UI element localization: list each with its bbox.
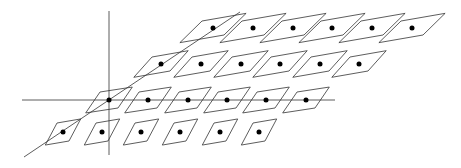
lattice-cell <box>202 119 237 145</box>
lattice-cell <box>293 51 347 78</box>
lattice-cell <box>214 51 268 78</box>
center-dot <box>330 26 335 31</box>
center-dot <box>278 62 283 67</box>
lattice-cell <box>332 51 386 78</box>
center-dot <box>257 130 262 135</box>
center-dot <box>218 130 223 135</box>
center-dot <box>251 26 256 31</box>
center-dot <box>186 98 191 103</box>
center-dot <box>239 62 244 67</box>
center-dot <box>107 98 112 103</box>
lattice-cell <box>241 119 276 145</box>
center-dot <box>159 62 164 67</box>
center-dot <box>304 98 309 103</box>
lattice-cell <box>174 51 228 78</box>
center-dot <box>357 62 362 67</box>
center-dot <box>199 62 204 67</box>
parallelogram-cells <box>45 13 445 145</box>
center-dot <box>410 26 415 31</box>
lattice-cell <box>220 13 286 42</box>
lattice-cell <box>180 13 246 42</box>
center-dot <box>264 98 269 103</box>
lattice-cell <box>379 13 445 42</box>
axes-group <box>22 11 335 157</box>
center-dot <box>291 26 296 31</box>
lattice-cell <box>134 51 188 78</box>
center-dot <box>61 130 66 135</box>
lattice-cell <box>260 13 326 42</box>
center-dot <box>146 98 151 103</box>
lattice-diagram <box>0 0 461 168</box>
center-dot <box>370 26 375 31</box>
lattice-cell <box>162 119 197 145</box>
center-dot <box>100 130 105 135</box>
lattice-cell <box>84 119 119 145</box>
center-dot <box>139 130 144 135</box>
lattice-cell <box>123 119 158 145</box>
lattice-cell <box>253 51 307 78</box>
center-dot <box>211 26 216 31</box>
center-dot <box>178 130 183 135</box>
lattice-cell <box>299 13 365 42</box>
lattice-cell <box>339 13 405 42</box>
center-dot <box>225 98 230 103</box>
center-dot <box>318 62 323 67</box>
